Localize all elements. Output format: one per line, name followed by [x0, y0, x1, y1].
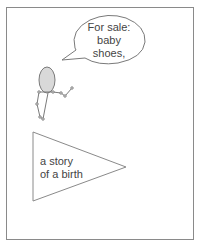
caption-line-1: a story: [40, 155, 110, 168]
speech-line-1: For sale:: [78, 21, 140, 34]
speech-line-3: shoes,: [78, 47, 140, 60]
speech-line-2: baby: [78, 34, 140, 47]
caption-line-2: of a birth: [40, 168, 110, 181]
triangle-caption: a story of a birth: [40, 155, 110, 181]
head-icon: [39, 67, 55, 93]
stick-figure: [36, 67, 73, 120]
speech-bubble-text: For sale: baby shoes,: [78, 21, 140, 60]
